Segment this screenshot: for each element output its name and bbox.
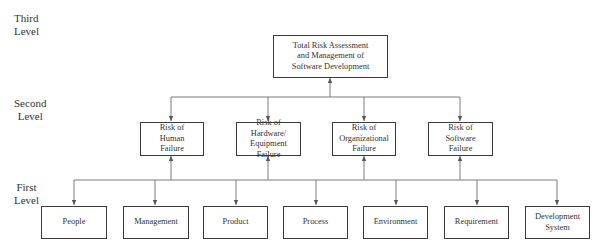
arrow-down-icon [458, 116, 462, 121]
node-process: Process [283, 206, 348, 239]
node-environment: Environment [363, 206, 428, 239]
arrow-down-icon [72, 200, 76, 205]
arrow-down-icon [153, 200, 157, 205]
node-management: Management [123, 206, 189, 239]
arrow-up-icon [458, 156, 462, 161]
arrow-down-icon [234, 200, 238, 205]
node-requirement: Requirement [444, 206, 509, 239]
node-product: Product [203, 206, 268, 239]
node-people: People [41, 206, 107, 239]
arrow-up-icon [362, 156, 366, 161]
node-risk-human-failure: Risk of Human Failure [140, 122, 204, 156]
arrow-down-icon [314, 200, 318, 205]
arrow-down-icon [362, 116, 366, 121]
arrow-down-icon [555, 200, 559, 205]
node-total-risk-assessment: Total Risk Assessment and Management of … [273, 35, 388, 78]
arrow-down-icon [394, 200, 398, 205]
arrow-down-icon [169, 116, 173, 121]
node-risk-organizational-failure: Risk of Organizational Failure [332, 122, 396, 156]
arrow-down-icon [475, 200, 479, 205]
node-risk-hardware-failure: Risk of Hardware/ Equipment Failure [236, 122, 301, 156]
node-development-system: Development System [525, 206, 590, 239]
node-risk-software-failure: Risk of Software Failure [428, 122, 493, 156]
arrow-up-icon [328, 78, 332, 83]
arrow-up-icon [169, 156, 173, 161]
